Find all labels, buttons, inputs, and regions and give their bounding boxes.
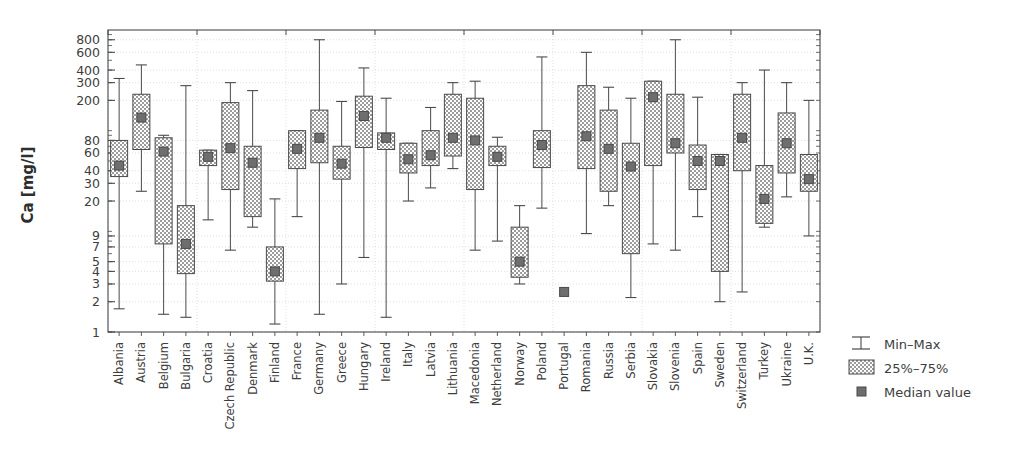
median-marker <box>248 158 257 167</box>
x-tick-label[interactable]: Lithuania <box>446 342 460 395</box>
median-marker <box>671 139 680 148</box>
x-tick-label[interactable]: Sweden <box>713 342 727 387</box>
median-marker <box>604 144 613 153</box>
y-tick-label: 30 <box>84 176 100 191</box>
hatched-box-icon <box>849 360 874 374</box>
legend-item-quartiles[interactable]: 25%–75% <box>849 360 948 376</box>
median-marker <box>382 133 391 142</box>
median-marker <box>626 162 635 171</box>
x-tick-label[interactable]: Spain <box>691 342 705 374</box>
y-tick-label: 3 <box>92 276 100 291</box>
legend-label: 25%–75% <box>884 361 948 376</box>
legend-label: Min–Max <box>884 337 941 352</box>
median-marker <box>804 175 813 184</box>
y-tick-label: 300 <box>76 75 100 90</box>
x-tick-label[interactable]: Croatia <box>201 342 215 383</box>
iqr-box <box>422 131 439 166</box>
y-tick-label: 1 <box>92 325 100 340</box>
x-tick-label[interactable]: Norway <box>513 342 527 386</box>
iqr-box <box>711 154 728 271</box>
iqr-box <box>111 140 128 176</box>
median-marker <box>715 156 724 165</box>
x-tick-label[interactable]: Denmark <box>246 342 260 395</box>
y-axis-label: Ca [mg/l] <box>19 146 37 223</box>
median-marker <box>204 152 213 161</box>
y-tick-label: 600 <box>76 45 100 60</box>
median-marker <box>693 156 702 165</box>
median-marker <box>315 133 324 142</box>
y-tick-label: 20 <box>84 194 100 209</box>
x-tick-label[interactable]: Italy <box>401 342 415 367</box>
y-tick-label: 200 <box>76 93 100 108</box>
x-tick-label[interactable]: Latvia <box>424 342 438 377</box>
iqr-box <box>244 146 261 216</box>
median-marker <box>226 144 235 153</box>
median-marker <box>448 133 457 142</box>
x-tick-label[interactable]: Netherland <box>490 342 504 406</box>
x-tick-label[interactable]: Bulgaria <box>179 342 193 390</box>
boxplot-chart: 80060040030020080604030209754321 Albania… <box>0 0 1019 452</box>
median-marker <box>137 113 146 122</box>
x-tick-label[interactable]: Slovakia <box>646 342 660 390</box>
median-marker <box>404 155 413 164</box>
median-marker <box>782 139 791 148</box>
x-tick-label[interactable]: Greece <box>335 342 349 383</box>
x-tick-label[interactable]: U.K. <box>802 342 816 365</box>
x-tick-label[interactable]: Czech Republic <box>223 342 237 430</box>
median-marker <box>426 151 435 160</box>
median-marker <box>359 111 368 120</box>
x-tick-label[interactable]: Serbia <box>624 342 638 379</box>
median-marker <box>582 132 591 141</box>
x-tick-label[interactable]: Turkey <box>757 342 771 381</box>
y-tick-label: 7 <box>92 239 100 254</box>
x-tick-label[interactable]: Ukraine <box>780 342 794 386</box>
x-tick-label[interactable]: France <box>290 342 304 380</box>
median-marker <box>115 161 124 170</box>
boxplot-group[interactable] <box>560 287 569 296</box>
x-tick-label[interactable]: Romania <box>579 342 593 392</box>
iqr-box <box>444 94 461 156</box>
x-tick-label[interactable]: Slovenia <box>668 342 682 391</box>
y-tick-label: 60 <box>84 145 100 160</box>
iqr-box <box>734 94 751 170</box>
boxplot-group[interactable] <box>444 83 461 169</box>
median-marker <box>270 267 279 276</box>
x-tick-label[interactable]: Switzerland <box>735 342 749 409</box>
iqr-box <box>689 145 706 190</box>
median-marker <box>293 144 302 153</box>
iqr-box <box>355 96 372 147</box>
x-tick-label[interactable]: Macedonia <box>468 342 482 404</box>
median-marker <box>181 239 190 248</box>
x-tick-label[interactable]: Albania <box>112 342 126 385</box>
x-tick-label[interactable]: Austria <box>134 342 148 383</box>
iqr-box <box>622 143 639 253</box>
legend-label: Median value <box>884 385 971 400</box>
median-marker <box>649 93 658 102</box>
median-marker <box>738 133 747 142</box>
x-tick-label[interactable]: Finland <box>268 342 282 383</box>
median-marker <box>560 287 569 296</box>
iqr-box <box>511 227 528 277</box>
median-marker <box>760 194 769 203</box>
x-tick-label[interactable]: Germany <box>312 342 326 395</box>
median-marker <box>493 152 502 161</box>
x-tick-label[interactable]: Belgium <box>157 342 171 389</box>
x-tick-label[interactable]: Russia <box>602 342 616 379</box>
y-tick-label: 2 <box>92 294 100 309</box>
chart-background <box>0 0 1019 452</box>
median-marker <box>337 159 346 168</box>
median-square-icon <box>857 387 866 396</box>
iqr-box <box>578 86 595 169</box>
x-tick-label[interactable]: Portugal <box>557 342 571 390</box>
median-marker <box>515 257 524 266</box>
median-marker <box>159 147 168 156</box>
x-tick-label[interactable]: Hungary <box>357 342 371 391</box>
x-tick-label[interactable]: Poland <box>535 342 549 380</box>
median-marker <box>537 141 546 150</box>
median-marker <box>471 136 480 145</box>
x-tick-label[interactable]: Ireland <box>379 342 393 382</box>
chart-root: 80060040030020080604030209754321 Albania… <box>0 0 1019 452</box>
iqr-box <box>800 154 817 191</box>
